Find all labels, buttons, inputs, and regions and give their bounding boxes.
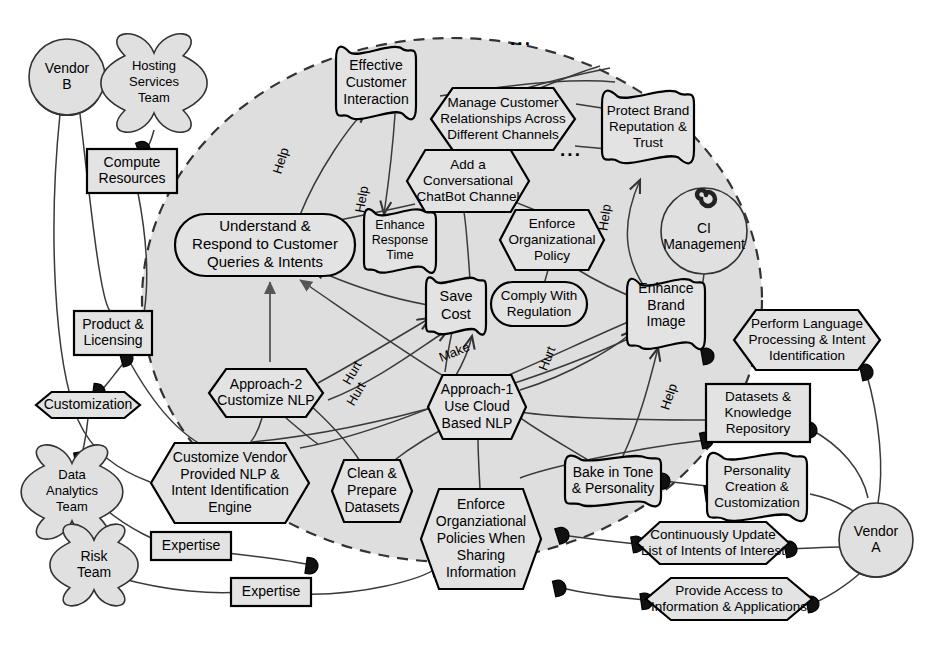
link-8 <box>120 578 241 593</box>
istar-goal-model: EffectiveCustomerInteractionManage Custo… <box>0 0 937 651</box>
comply_with_regulation-label: Comply WithRegulation <box>501 287 578 318</box>
node-customize_vendor_provided_nlp[interactable]: Customize VendorProvided NLP &Intent Ide… <box>151 443 309 523</box>
risk_team-label: RiskTeam <box>77 547 111 580</box>
save_cost-label: SaveCost <box>439 288 472 321</box>
node-effective_customer_interaction[interactable]: EffectiveCustomerInteraction <box>336 47 416 120</box>
dependency-marker-10 <box>552 579 567 597</box>
node-customization[interactable]: Customization <box>36 392 140 418</box>
node-enforce_organizational_policy[interactable]: EnforceOrganizationalPolicy <box>500 210 604 270</box>
node-compute_resources[interactable]: ComputeResources <box>87 149 177 193</box>
node-datasets_knowledge_repository[interactable]: Datasets &KnowledgeRepository <box>706 384 810 442</box>
link-9 <box>301 568 437 594</box>
link-47 <box>558 587 646 600</box>
manage_customer_relationships-label: Manage CustomerRelationships AcrossDiffe… <box>440 94 566 141</box>
node-product_licensing[interactable]: Product &Licensing <box>74 311 152 355</box>
continuously_update_intents-label: Continuously UpdateList of Intents of In… <box>641 526 785 557</box>
node-protect_brand_reputation[interactable]: Protect BrandReputation &Trust <box>602 91 694 164</box>
node-comply_with_regulation[interactable]: Comply WithRegulation <box>491 282 587 326</box>
link-1 <box>80 114 110 311</box>
actor-ci_management[interactable]: CIManagement <box>661 188 747 274</box>
actor-vendor_b[interactable]: VendorB <box>29 39 105 115</box>
customization-label: Customization <box>44 396 133 412</box>
expertise_2-label: Expertise <box>242 583 301 599</box>
actor-hosting_services_team[interactable]: HostingServicesTeam <box>101 34 207 132</box>
node-enforce_org_policies_sharing[interactable]: EnforceOrganziationalPolicies WhenSharin… <box>421 489 541 589</box>
node-bake_in_tone_personality[interactable]: Bake in Tone& Personality <box>565 456 661 507</box>
datasets_knowledge_repository-label: Datasets &KnowledgeRepository <box>725 388 792 435</box>
node-expertise_1[interactable]: Expertise <box>151 532 231 560</box>
compute_resources-label: ComputeResources <box>99 153 166 186</box>
approach_1_use_cloud_nlp-label: Approach-1Use CloudBased NLP <box>441 381 514 431</box>
node-approach_2_customize_nlp[interactable]: Approach-2Customize NLP <box>209 369 323 417</box>
node-personality_creation_customization[interactable]: PersonalityCreation &Customization <box>707 453 807 521</box>
node-enhance_response_time[interactable]: EnhanceResponseTime <box>364 209 436 273</box>
link-41 <box>866 372 881 503</box>
dependency-marker-5 <box>305 557 319 575</box>
node-continuously_update_intents[interactable]: Continuously UpdateList of Intents of In… <box>637 522 789 564</box>
node-save_cost[interactable]: SaveCost <box>426 277 486 334</box>
link-42 <box>810 429 868 498</box>
personality_creation_customization-label: PersonalityCreation &Customization <box>714 462 800 509</box>
diagram-canvas: EffectiveCustomerInteractionManage Custo… <box>0 0 937 651</box>
approach_2_customize_nlp-label: Approach-2Customize NLP <box>217 375 314 408</box>
product_licensing-label: Product &Licensing <box>82 315 144 348</box>
node-understand_respond_customer[interactable]: Understand &Respond to CustomerQueries &… <box>175 214 355 276</box>
node-expertise_2[interactable]: Expertise <box>231 578 311 606</box>
node-approach_1_use_cloud_nlp[interactable]: Approach-1Use CloudBased NLP <box>428 375 526 439</box>
ellipsis-mark-1: ... <box>560 139 582 160</box>
ellipsis-mark-0: ... <box>510 28 532 49</box>
node-clean_prepare_datasets[interactable]: Clean &PrepareDatasets <box>332 460 412 522</box>
node-add_conversational_chatbot_channel[interactable]: Add aConversationalChatBot Channel <box>407 150 529 212</box>
clean_prepare_datasets-label: Clean &PrepareDatasets <box>344 465 399 515</box>
node-enhance_brand_image[interactable]: EnhanceBrandImage <box>627 279 705 350</box>
effective_customer_interaction-label: EffectiveCustomerInteraction <box>343 57 408 107</box>
node-perform_language_processing[interactable]: Perform LanguageProcessing & IntentIdent… <box>734 310 880 370</box>
bake_in_tone_personality-label: Bake in Tone& Personality <box>572 463 654 496</box>
node-manage_customer_relationships[interactable]: Manage CustomerRelationships AcrossDiffe… <box>431 88 575 150</box>
expertise_1-label: Expertise <box>162 537 221 553</box>
actor-vendor_a[interactable]: VendorA <box>839 503 913 577</box>
node-provide_access_information[interactable]: Provide Access toInformation & Applicati… <box>646 578 812 620</box>
